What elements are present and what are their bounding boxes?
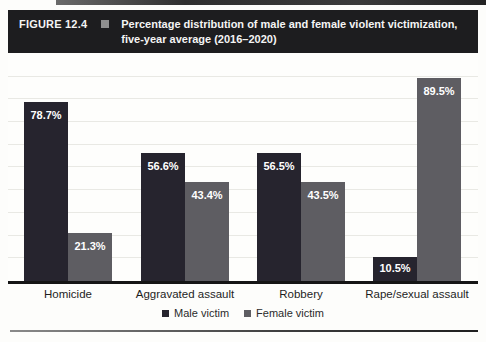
figure-title-line2: five-year average (2016–2020) bbox=[121, 33, 276, 45]
category-label-robbery: Robbery bbox=[236, 288, 366, 300]
gridline-90pct bbox=[8, 76, 478, 77]
gridline-70pct bbox=[8, 121, 478, 122]
bar-male-victim-homicide: 78.7% bbox=[24, 102, 68, 281]
female-victim-swatch-icon bbox=[244, 310, 251, 317]
chart-plot-area: 78.7%21.3%56.6%43.4%56.5%43.5%10.5%89.5% bbox=[8, 54, 478, 281]
figure-header: FIGURE 12.4 Percentage distribution of m… bbox=[8, 10, 478, 53]
gridline-50pct bbox=[8, 166, 478, 167]
legend-label-male-victim: Male victim bbox=[174, 307, 229, 319]
figure-page: FIGURE 12.4 Percentage distribution of m… bbox=[0, 0, 486, 342]
bar-male-victim-robbery: 56.5% bbox=[257, 153, 301, 281]
legend-label-female-victim: Female victim bbox=[256, 307, 324, 319]
bar-female-victim-homicide: 21.3% bbox=[68, 233, 112, 281]
bar-value-label: 21.3% bbox=[68, 240, 112, 252]
legend: Male victim Female victim bbox=[0, 307, 486, 319]
bar-value-label: 89.5% bbox=[417, 85, 461, 97]
gridline-80pct bbox=[8, 98, 478, 99]
bar-value-label: 43.5% bbox=[301, 189, 345, 201]
figure-title: Percentage distribution of male and fema… bbox=[121, 17, 468, 46]
scan-edge-strip bbox=[56, 0, 486, 5]
figure-marker-icon bbox=[101, 20, 109, 28]
legend-item-female-victim: Female victim bbox=[244, 307, 324, 319]
bar-value-label: 10.5% bbox=[373, 262, 417, 274]
x-axis-line bbox=[8, 281, 478, 284]
bar-female-victim-robbery: 43.5% bbox=[301, 182, 345, 281]
bar-value-label: 56.5% bbox=[257, 160, 301, 172]
bottom-rule bbox=[10, 330, 478, 332]
bar-male-victim-rape-sexual-assault: 10.5% bbox=[373, 257, 417, 281]
figure-title-line1: Percentage distribution of male and fema… bbox=[121, 18, 457, 30]
bar-female-victim-aggravated-assault: 43.4% bbox=[185, 182, 229, 281]
legend-item-male-victim: Male victim bbox=[162, 307, 229, 319]
bar-value-label: 43.4% bbox=[185, 189, 229, 201]
bar-value-label: 78.7% bbox=[24, 109, 68, 121]
bar-value-label: 56.6% bbox=[141, 160, 185, 172]
figure-number: FIGURE 12.4 bbox=[19, 17, 87, 32]
gridline-40pct bbox=[8, 189, 478, 190]
bar-male-victim-aggravated-assault: 56.6% bbox=[141, 153, 185, 281]
male-victim-swatch-icon bbox=[162, 310, 169, 317]
category-label-rape-sexual-assault: Rape/sexual assault bbox=[352, 288, 482, 300]
gridline-60pct bbox=[8, 144, 478, 145]
gridline-30pct bbox=[8, 212, 478, 213]
category-label-homicide: Homicide bbox=[3, 288, 133, 300]
bar-female-victim-rape-sexual-assault: 89.5% bbox=[417, 78, 461, 281]
category-label-aggravated-assault: Aggravated assault bbox=[120, 288, 250, 300]
